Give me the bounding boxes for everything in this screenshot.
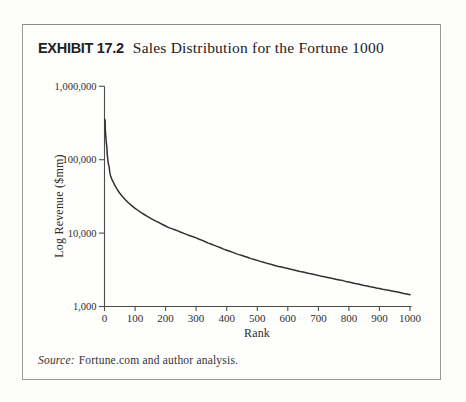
exhibit-number: EXHIBIT 17.2 xyxy=(38,40,124,56)
source-note: Source:Fortune.com and author analysis. xyxy=(38,354,238,366)
book-page: EXHIBIT 17.2Sales Distribution for the F… xyxy=(0,0,466,402)
y-axis-title: Log Revenue ($mm) xyxy=(52,154,67,257)
exhibit-frame xyxy=(22,24,441,380)
source-prefix: Source: xyxy=(38,354,75,366)
exhibit-title: Sales Distribution for the Fortune 1000 xyxy=(133,39,384,56)
source-text: Fortune.com and author analysis. xyxy=(79,354,238,366)
x-axis-title: Rank xyxy=(244,326,270,341)
exhibit-heading: EXHIBIT 17.2Sales Distribution for the F… xyxy=(38,39,384,57)
